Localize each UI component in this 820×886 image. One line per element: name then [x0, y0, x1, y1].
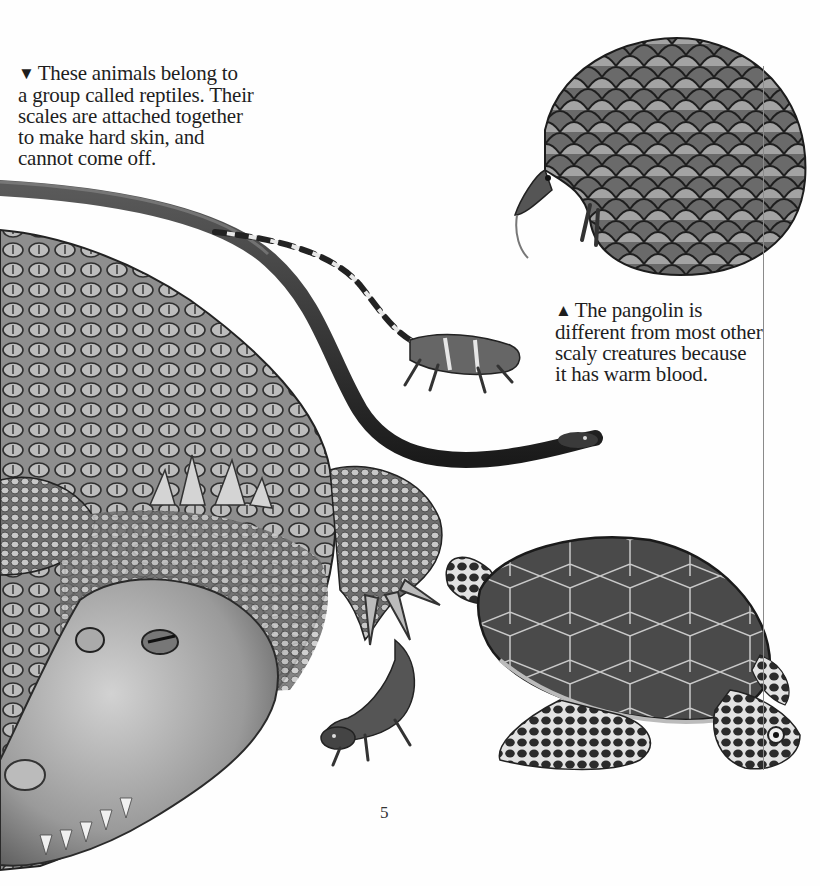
caption-line: different from most other [555, 322, 762, 343]
sea-turtle-illustration [446, 537, 800, 769]
caption-line: scaly creatures because [555, 343, 762, 364]
caption-line: scales are attached together [18, 106, 254, 127]
pangolin-illustration [515, 38, 805, 275]
crocodile-illustration [0, 230, 442, 870]
up-triangle-icon: ▲ [555, 301, 572, 320]
caption-line: cannot come off. [18, 148, 254, 169]
page-number: 5 [380, 803, 389, 823]
caption-line: a group called reptiles. Their [18, 85, 254, 106]
pangolin-caption: ▲The pangolin is different from most oth… [555, 300, 762, 385]
tuatara-illustration [321, 640, 414, 765]
caption-line: ▲The pangolin is [555, 300, 762, 322]
book-page: ▼These animals belong to a group called … [0, 0, 820, 886]
caption-line: to make hard skin, and [18, 127, 254, 148]
reptiles-caption: ▼These animals belong to a group called … [18, 63, 254, 169]
caption-line: ▼These animals belong to [18, 63, 254, 85]
margin-rule [763, 66, 764, 770]
caption-line: it has warm blood. [555, 364, 762, 385]
down-triangle-icon: ▼ [18, 64, 35, 83]
